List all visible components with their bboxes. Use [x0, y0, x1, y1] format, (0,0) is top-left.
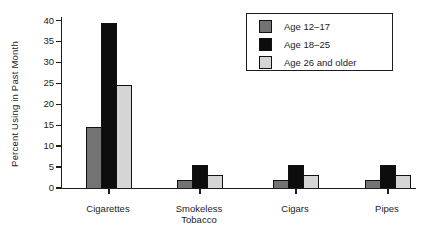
- bar-group: [365, 165, 411, 188]
- bar: [192, 165, 208, 188]
- bar-group: [273, 165, 319, 188]
- bar: [395, 175, 411, 188]
- category-label: Smokeless Tobacco: [164, 203, 234, 225]
- y-tick: [56, 41, 62, 42]
- figure: Percent Using in Past Month 051015202530…: [0, 0, 432, 234]
- legend-swatch: [259, 38, 272, 51]
- y-tick-label: 20: [26, 99, 54, 109]
- category-label: Pipes: [352, 203, 422, 214]
- bar: [288, 165, 304, 188]
- bar: [86, 127, 102, 188]
- x-tick: [295, 189, 296, 194]
- bar: [207, 175, 223, 188]
- bar-group: [177, 165, 223, 188]
- bar: [177, 180, 193, 188]
- category-label: Cigars: [260, 203, 330, 214]
- bar: [380, 165, 396, 188]
- y-tick-label: 25: [26, 78, 54, 88]
- bar: [273, 180, 289, 188]
- y-tick: [56, 187, 62, 188]
- legend-label: Age 12–17: [284, 21, 330, 32]
- y-tick: [56, 145, 62, 146]
- y-tick-label: 5: [26, 162, 54, 172]
- legend-label: Age 18–25: [284, 39, 330, 50]
- y-tick: [56, 20, 62, 21]
- y-tick-label: 0: [26, 183, 54, 193]
- y-tick: [56, 166, 62, 167]
- legend-row: Age 18–25: [259, 38, 392, 51]
- legend-row: Age 12–17: [259, 20, 392, 33]
- x-tick: [387, 189, 388, 194]
- legend-row: Age 26 and older: [259, 56, 392, 69]
- legend-label: Age 26 and older: [284, 57, 356, 68]
- y-tick: [56, 104, 62, 105]
- y-tick-label: 30: [26, 57, 54, 67]
- y-tick-label: 35: [26, 36, 54, 46]
- x-tick: [199, 189, 200, 194]
- bar: [303, 175, 319, 188]
- y-tick: [56, 125, 62, 126]
- y-axis-title: Percent Using in Past Month: [9, 41, 20, 167]
- bar: [365, 180, 381, 188]
- x-tick: [108, 189, 109, 194]
- y-tick-label: 40: [26, 16, 54, 26]
- y-tick-label: 15: [26, 120, 54, 130]
- category-label: Cigarettes: [73, 203, 143, 214]
- legend-swatch: [259, 20, 272, 33]
- y-tick: [56, 83, 62, 84]
- bar: [101, 23, 117, 188]
- legend-swatch: [259, 56, 272, 69]
- y-tick: [56, 62, 62, 63]
- bar-group: [86, 23, 132, 188]
- bar: [116, 85, 132, 188]
- y-tick-label: 10: [26, 141, 54, 151]
- legend: Age 12–17 Age 18–25 Age 26 and older: [246, 13, 393, 71]
